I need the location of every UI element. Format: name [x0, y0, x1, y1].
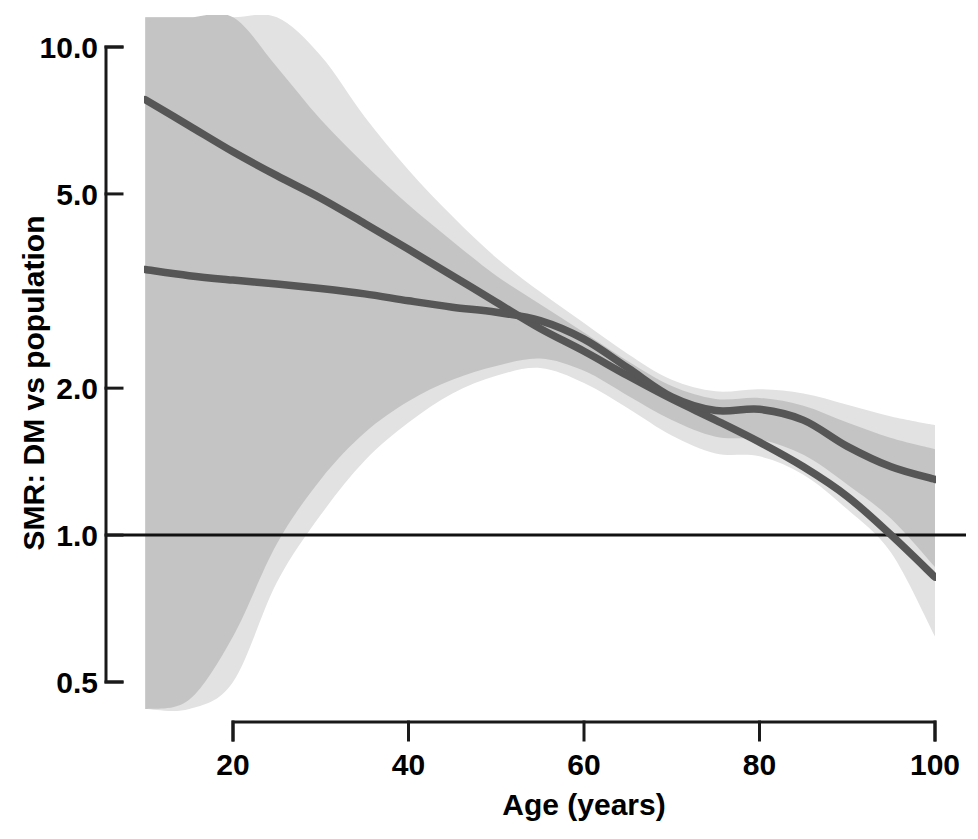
- x-tick-label: 100: [910, 748, 960, 781]
- y-tick-label: 5.0: [56, 178, 98, 211]
- smr-vs-age-chart: 0.51.02.05.010.0 SMR: DM vs population 2…: [0, 0, 978, 839]
- y-tick-label: 10.0: [40, 31, 98, 64]
- chart-figure: 0.51.02.05.010.0 SMR: DM vs population 2…: [0, 0, 978, 839]
- x-tick-label: 60: [567, 748, 600, 781]
- y-tick-label: 2.0: [56, 372, 98, 405]
- y-tick-label: 1.0: [56, 519, 98, 552]
- y-tick-label: 0.5: [56, 666, 98, 699]
- x-axis-title: Age (years): [502, 788, 665, 821]
- x-tick-label: 80: [743, 748, 776, 781]
- y-axis-title: SMR: DM vs population: [17, 216, 50, 551]
- x-tick-label: 40: [392, 748, 425, 781]
- x-tick-label: 20: [216, 748, 249, 781]
